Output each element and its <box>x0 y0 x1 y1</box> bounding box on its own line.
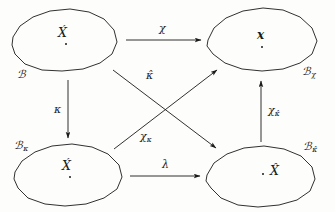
arrow-label-chi-kappa-text: χ <box>140 130 147 143</box>
set-label-B-chi: ℬχ <box>302 66 316 79</box>
arrow-label-chi: χ <box>159 23 166 36</box>
element-label-B-chi: 𝒙 <box>257 29 264 41</box>
set-label-B-text: ℬ <box>17 68 26 81</box>
set-label-B-kappa-text: ℬ <box>14 139 23 152</box>
element-label-B-kappa: X́ <box>62 160 71 173</box>
commutative-diagram: X́ 𝒙 X́ X̂ ℬ ℬχ ℬκ ℬκ̂ χ κ λ χκ̂ κ̂ χκ <box>0 0 335 212</box>
set-label-B-kappa-hat-text: ℬ <box>303 140 312 153</box>
arrow-label-chi-kappa: χκ <box>140 131 152 144</box>
arrow-label-lambda-text: λ <box>162 158 169 171</box>
set-label-B-kappa: ℬκ <box>14 140 28 153</box>
arrow-label-kappa: κ <box>54 104 61 117</box>
arrow-label-kappa-text: κ <box>54 103 61 116</box>
arrow-label-chi-kappa-hat-sub: κ̂ <box>275 109 280 118</box>
arrow-label-kappa-hat-text: κ̂ <box>146 69 153 82</box>
arrow-label-chi-kappa-hat: χκ̂ <box>268 105 280 118</box>
blob-B-kappa-hat <box>206 146 315 207</box>
arrow-label-chi-text: χ <box>159 22 166 35</box>
arrow-kappa-hat <box>113 70 216 148</box>
diagram-canvas <box>0 0 335 212</box>
element-label-B-kappa-hat: X̂ <box>270 165 279 178</box>
arrow-label-chi-kappa-hat-text: χ <box>268 104 275 117</box>
element-label-B: X́ <box>58 27 67 40</box>
set-label-B-chi-sub: χ <box>311 70 316 79</box>
arrow-label-chi-kappa-sub: κ <box>147 135 152 144</box>
arrow-label-lambda: λ <box>162 159 169 172</box>
set-label-B-kappa-hat-sub: κ̂ <box>312 145 317 154</box>
blob-B-kappa <box>14 144 122 206</box>
set-label-B-kappa-hat: ℬκ̂ <box>303 141 317 154</box>
arrow-label-kappa-hat: κ̂ <box>146 70 153 83</box>
set-label-B: ℬ <box>17 69 26 82</box>
set-label-B-kappa-sub: κ <box>23 144 28 153</box>
set-label-B-chi-text: ℬ <box>302 65 311 78</box>
blob-B <box>12 9 117 71</box>
